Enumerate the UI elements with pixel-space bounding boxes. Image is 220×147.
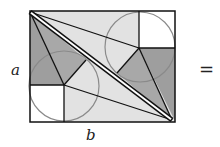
rectangle-diagram: a b =	[0, 0, 220, 147]
label-a: a	[11, 61, 20, 79]
label-b: b	[86, 126, 96, 144]
equals-sign: =	[199, 59, 214, 80]
